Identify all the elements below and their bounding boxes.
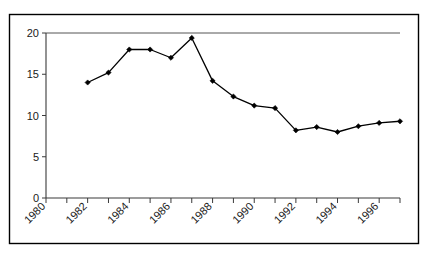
- chart-figure: 0510152019801982198419861988199019921994…: [0, 0, 428, 258]
- y-axis-tick-label: 20: [27, 27, 39, 39]
- y-axis-tick-label: 10: [27, 110, 39, 122]
- y-axis-tick-label: 5: [33, 151, 39, 163]
- line-chart: 0510152019801982198419861988199019921994…: [0, 0, 428, 258]
- y-axis-tick-label: 15: [27, 68, 39, 80]
